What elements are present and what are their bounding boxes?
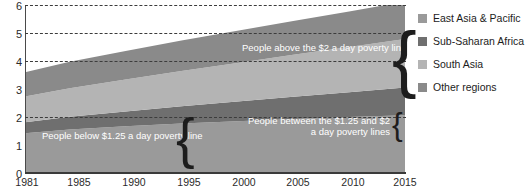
legend-label: East Asia & Pacific xyxy=(433,12,521,24)
x-tick-1981: 1981 xyxy=(15,176,38,188)
x-tick-2015: 2015 xyxy=(393,176,416,188)
legend-label: Sub-Saharan Africa xyxy=(433,35,524,47)
y-axis-line xyxy=(25,5,26,173)
legend-item-south-asia[interactable]: South Asia xyxy=(418,54,530,74)
brace-between-125-2: { xyxy=(392,108,403,140)
brace-above-2: { xyxy=(392,22,417,96)
y-tick-4: 4 xyxy=(2,57,22,67)
x-tick-2010: 2010 xyxy=(341,176,364,188)
stacked-area-series xyxy=(25,5,405,173)
y-axis-labels: 6 5 4 3 2 1 0 xyxy=(0,0,22,192)
legend-label: South Asia xyxy=(433,58,483,70)
y-tick-2: 2 xyxy=(2,113,22,123)
legend-swatch-icon xyxy=(418,60,427,69)
legend: East Asia & Pacific Sub-Saharan Africa S… xyxy=(418,8,530,100)
y-tick-5: 5 xyxy=(2,29,22,39)
y-tick-6: 6 xyxy=(2,1,22,11)
legend-item-sub-saharan-africa[interactable]: Sub-Saharan Africa xyxy=(418,31,530,51)
y-tick-3: 3 xyxy=(2,85,22,95)
legend-swatch-icon xyxy=(418,14,427,23)
gridline-5 xyxy=(25,33,406,34)
legend-label: Other regions xyxy=(433,81,497,93)
x-tick-2000: 2000 xyxy=(232,176,255,188)
annotation-between-line1: People between the $1.25 and $2 xyxy=(238,115,390,126)
poverty-stacked-area-chart: 6 5 4 3 2 1 0 People above the $2 a day … xyxy=(0,0,530,192)
legend-swatch-icon xyxy=(418,37,427,46)
gridline-6 xyxy=(25,5,406,6)
gridline-4 xyxy=(25,61,406,62)
annotation-between-line2: a day poverty lines xyxy=(238,126,390,137)
legend-swatch-icon xyxy=(418,83,427,92)
x-axis-labels: 1981 1985 1990 1995 2000 2005 2010 2015 xyxy=(0,176,530,192)
y-tick-1: 1 xyxy=(2,141,22,151)
x-tick-1995: 1995 xyxy=(177,176,200,188)
x-tick-2005: 2005 xyxy=(286,176,309,188)
legend-item-other-regions[interactable]: Other regions xyxy=(418,77,530,97)
legend-item-east-asia-pacific[interactable]: East Asia & Pacific xyxy=(418,8,530,28)
annotation-above-2-label: People above the $2 a day poverty line xyxy=(242,42,406,53)
brace-below-125: { xyxy=(176,110,195,166)
x-tick-1985: 1985 xyxy=(67,176,90,188)
plot-area xyxy=(25,5,405,173)
x-axis-line xyxy=(25,172,406,174)
x-tick-1990: 1990 xyxy=(122,176,145,188)
